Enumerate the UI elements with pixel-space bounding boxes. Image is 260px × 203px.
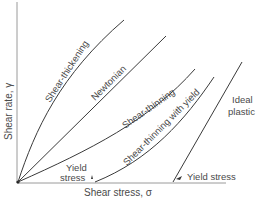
y-axis-label: Shear rate, γ	[3, 83, 14, 140]
label-ideal-plastic-line2: plastic	[228, 106, 255, 117]
annotation-yield-stress-left-line2: stress	[60, 172, 86, 183]
label-ideal-plastic-line1: Ideal	[232, 94, 253, 105]
x-axis-label: Shear stress, σ	[84, 187, 153, 198]
annotation-yield-stress-right: Yield stress	[187, 171, 236, 182]
label-shear-thickening: Shear-thickening	[42, 38, 90, 104]
curve-ideal-plastic	[173, 62, 242, 182]
yield-stress-right-arrow-icon	[176, 176, 182, 180]
yield-stress-left-arrow-icon	[91, 175, 93, 179]
rheology-flow-curves-diagram: Shear rate, γ Shear stress, σ Shear-thic…	[0, 0, 260, 203]
label-newtonian: Newtonian	[89, 63, 129, 103]
